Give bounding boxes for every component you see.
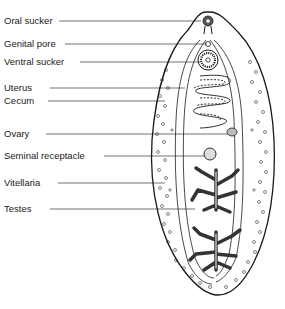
label-oral-sucker: Oral sucker (4, 15, 53, 26)
label-genital-pore: Genital pore (4, 38, 56, 49)
label-uterus: Uterus (4, 82, 32, 93)
label-seminal-receptacle: Seminal receptacle (4, 150, 85, 161)
label-ovary: Ovary (4, 128, 29, 139)
ovary (227, 128, 237, 136)
ventral-sucker (198, 50, 218, 70)
label-cecum: Cecum (4, 95, 34, 106)
seminal-receptacle (204, 148, 216, 160)
testes (190, 168, 240, 270)
vitellaria (156, 61, 268, 289)
oral-sucker (203, 16, 213, 34)
uterus (194, 75, 231, 128)
label-testes: Testes (4, 203, 31, 214)
ceca (175, 40, 243, 284)
label-vitellaria: Vitellaria (4, 177, 40, 188)
label-ventral-sucker: Ventral sucker (4, 56, 64, 67)
